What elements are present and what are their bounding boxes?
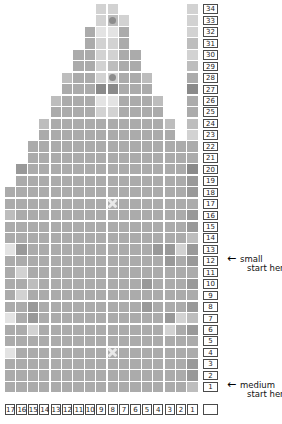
stitch-cell: [16, 348, 26, 358]
stitch-cell: [51, 370, 61, 380]
row-number-label: 33: [203, 16, 218, 26]
stitch-cell: [142, 348, 152, 358]
stitch-cell: [165, 141, 175, 151]
row-color-swatch: [187, 290, 198, 300]
row-color-swatch: [187, 325, 198, 335]
stitch-cell: [119, 290, 129, 300]
stitch-cell: [108, 38, 118, 48]
stitch-cell: [96, 222, 106, 232]
stitch-cell: [119, 348, 129, 358]
stitch-cell: [108, 73, 118, 83]
column-number-label: 6: [130, 404, 140, 415]
stitch-cell: [130, 107, 140, 117]
stitch-cell: [39, 279, 49, 289]
stitch-cell: [5, 256, 15, 266]
stitch-cell: [176, 382, 186, 392]
row-color-swatch: [187, 256, 198, 266]
stitch-cell: [142, 382, 152, 392]
stitch-cell: [28, 267, 38, 277]
stitch-cell: [85, 187, 95, 197]
stitch-cell: [85, 370, 95, 380]
row-number-label: 25: [203, 107, 218, 117]
stitch-cell: [153, 119, 163, 129]
stitch-cell: [165, 153, 175, 163]
stitch-cell: [62, 359, 72, 369]
stitch-cell: [142, 164, 152, 174]
row-color-swatch: [187, 27, 198, 37]
stitch-cell: [96, 199, 106, 209]
stitch-cell: [153, 290, 163, 300]
stitch-cell: [51, 336, 61, 346]
stitch-cell: [119, 336, 129, 346]
stitch-cell: [119, 279, 129, 289]
stitch-cell: [16, 256, 26, 266]
stitch-cell: [130, 61, 140, 71]
stitch-cell: [39, 164, 49, 174]
stitch-cell: [96, 61, 106, 71]
stitch-cell: [73, 107, 83, 117]
stitch-cell: [62, 233, 72, 243]
column-number-label: 14: [39, 404, 49, 415]
row-color-swatch: [187, 38, 198, 48]
row-number-label: 22: [203, 142, 218, 152]
stitch-cell: [73, 256, 83, 266]
row-number-label: 26: [203, 96, 218, 106]
row-number-label: 5: [203, 336, 218, 346]
stitch-cell: [165, 210, 175, 220]
row-color-swatch: [187, 267, 198, 277]
stitch-cell: [153, 233, 163, 243]
stitch-cell: [16, 233, 26, 243]
stitch-cell: [73, 210, 83, 220]
stitch-cell: [96, 348, 106, 358]
stitch-cell: [39, 382, 49, 392]
stitch-cell: [51, 199, 61, 209]
row-number-label: 19: [203, 176, 218, 186]
stitch-cell: [73, 336, 83, 346]
stitch-cell: [85, 244, 95, 254]
stitch-cell: [73, 187, 83, 197]
stitch-cell: [153, 107, 163, 117]
row-color-swatch: [187, 348, 198, 358]
stitch-cell: [165, 267, 175, 277]
stitch-cell: [62, 153, 72, 163]
stitch-cell: [130, 370, 140, 380]
stitch-cell: [130, 382, 140, 392]
row-color-swatch: [187, 141, 198, 151]
stitch-cell: [153, 199, 163, 209]
stitch-cell: [73, 325, 83, 335]
stitch-cell: [176, 187, 186, 197]
stitch-cell: [165, 187, 175, 197]
stitch-cell: [16, 382, 26, 392]
stitch-cell: [153, 267, 163, 277]
stitch-cell: [119, 187, 129, 197]
stitch-cell: [119, 313, 129, 323]
stitch-cell: [5, 382, 15, 392]
stitch-cell: [85, 38, 95, 48]
row-color-swatch: [187, 370, 198, 380]
column-number-label: 17: [5, 404, 15, 415]
stitch-cell: [62, 210, 72, 220]
stitch-cell: [51, 187, 61, 197]
stitch-cell: [62, 382, 72, 392]
stitch-cell: [73, 119, 83, 129]
stitch-cell: [16, 164, 26, 174]
stitch-cell: [176, 210, 186, 220]
stitch-cell: [165, 370, 175, 380]
stitch-cell: [165, 302, 175, 312]
stitch-cell: [51, 176, 61, 186]
row-color-swatch: [187, 210, 198, 220]
stitch-cell: [62, 244, 72, 254]
stitch-cell: [16, 187, 26, 197]
row-number-label: 15: [203, 222, 218, 232]
stitch-cell: [165, 325, 175, 335]
stitch-cell: [176, 359, 186, 369]
stitch-cell: [5, 233, 15, 243]
stitch-cell: [142, 256, 152, 266]
stitch-cell: [142, 130, 152, 140]
stitch-cell: [119, 256, 129, 266]
stitch-cell: [108, 256, 118, 266]
row-number-label: 3: [203, 359, 218, 369]
stitch-cell: [28, 187, 38, 197]
row-number-label: 20: [203, 165, 218, 175]
stitch-cell: [73, 222, 83, 232]
